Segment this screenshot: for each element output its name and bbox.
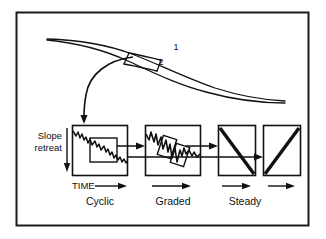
figure-frame bbox=[17, 13, 309, 226]
profile-label-2: 2 bbox=[158, 57, 163, 67]
panel-caption-cyclic: Cyclic bbox=[86, 195, 114, 207]
slope-evolution-figure: 1 2 Slope retreat bbox=[0, 0, 326, 239]
panel-caption-steady: Steady bbox=[229, 195, 262, 207]
panel-caption-graded: Graded bbox=[155, 195, 190, 207]
panel-cyclic bbox=[73, 126, 128, 176]
figure-container: 1 2 Slope retreat bbox=[0, 0, 326, 239]
panel-graded bbox=[146, 126, 201, 176]
time-axis-label: TIME bbox=[72, 180, 95, 191]
panel-cyclic-frame bbox=[73, 126, 128, 176]
slope-retreat-label-line1: Slope bbox=[38, 130, 62, 141]
profile-label-1: 1 bbox=[173, 42, 178, 52]
panel-steady-ascending bbox=[264, 126, 301, 176]
slope-retreat-label-line2: retreat bbox=[35, 142, 63, 153]
panel-steady-descending bbox=[219, 126, 256, 176]
